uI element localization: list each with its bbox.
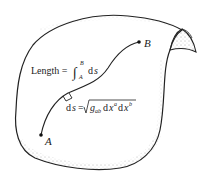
svg-text:s: s — [94, 65, 98, 76]
svg-text:d: d — [66, 102, 71, 113]
svg-text:ab: ab — [95, 108, 101, 114]
surface — [16, 15, 182, 169]
svg-text:d: d — [103, 102, 108, 113]
svg-text:a: a — [114, 101, 117, 107]
svg-text:=: = — [78, 102, 84, 113]
point-a-label: A — [44, 135, 52, 147]
point-a-dot — [39, 133, 43, 137]
svg-text:d: d — [88, 65, 93, 76]
svg-text:s: s — [72, 102, 76, 113]
point-b-dot — [137, 40, 141, 44]
svg-text:A: A — [78, 74, 83, 80]
diagram-canvas: A B Length = ∫ B A d s d s = g ab d x a … — [0, 0, 208, 183]
svg-text:b: b — [129, 101, 132, 107]
svg-text:B: B — [80, 60, 84, 66]
svg-text:d: d — [118, 102, 123, 113]
svg-text:Length =: Length = — [31, 65, 68, 76]
point-b-label: B — [144, 37, 151, 49]
